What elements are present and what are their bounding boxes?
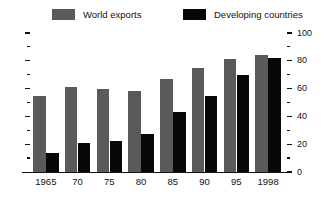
x-axis-line	[22, 172, 292, 173]
legend-item-world-exports: World exports	[52, 7, 141, 21]
y-tick-minor	[287, 102, 290, 103]
bar-world-exports	[160, 79, 173, 172]
bar-group	[33, 33, 59, 172]
bar-developing-countries	[237, 75, 250, 172]
bar-developing-countries	[205, 96, 218, 172]
y-tick-label: 60	[297, 84, 307, 93]
legend-item-developing-countries: Developing countries	[183, 7, 303, 21]
y-tick-major	[287, 171, 292, 172]
x-axis-label: 1965	[30, 176, 62, 187]
bar-group	[160, 33, 186, 172]
y-axis-left-ticks	[22, 33, 30, 172]
x-axis-label: 80	[125, 176, 157, 187]
bar-developing-countries	[78, 143, 91, 172]
y-tick-label: 0	[297, 168, 302, 177]
bar-world-exports	[33, 96, 46, 172]
bar-developing-countries	[141, 134, 154, 172]
x-axis-label: 75	[94, 176, 126, 187]
legend-swatch-world-exports	[52, 9, 75, 20]
x-axis-label: 85	[157, 176, 189, 187]
y-tick-label: 80	[297, 56, 307, 65]
chart-legend: World exports Developing countries	[0, 6, 329, 24]
y-tick-major	[287, 116, 292, 117]
y-tick-minor	[287, 130, 290, 131]
bar-group	[65, 33, 91, 172]
bar-developing-countries	[268, 58, 281, 172]
bar-developing-countries	[110, 141, 123, 172]
x-axis-label: 95	[221, 176, 253, 187]
x-axis-label: 1998	[252, 176, 284, 187]
x-axis-labels: 19657075808590951998	[30, 176, 284, 190]
legend-swatch-developing-countries	[183, 9, 206, 20]
y-tick-major	[287, 32, 292, 33]
x-axis-label: 70	[62, 176, 94, 187]
bar-chart: World exports Developing countries 02040…	[0, 0, 329, 202]
bar-developing-countries	[173, 112, 186, 172]
y-tick-major	[287, 88, 292, 89]
y-tick-major	[287, 144, 292, 145]
bar-group	[255, 33, 281, 172]
bar-world-exports	[192, 68, 205, 172]
y-tick-major	[287, 60, 292, 61]
legend-label-world-exports: World exports	[83, 9, 141, 20]
bar-world-exports	[128, 91, 141, 172]
legend-label-developing-countries: Developing countries	[214, 9, 303, 20]
bar-developing-countries	[46, 153, 59, 172]
y-tick-label: 100	[297, 29, 312, 38]
y-tick-minor	[287, 46, 290, 47]
bar-world-exports	[97, 89, 110, 172]
x-axis-label: 90	[189, 176, 221, 187]
bar-world-exports	[65, 87, 78, 172]
plot-area	[30, 33, 284, 172]
bar-world-exports	[255, 55, 268, 172]
y-tick-label: 20	[297, 140, 307, 149]
y-tick-label: 40	[297, 112, 307, 121]
y-tick-minor	[287, 157, 290, 158]
y-tick-minor	[287, 74, 290, 75]
bar-group	[192, 33, 218, 172]
bar-group	[128, 33, 154, 172]
bar-group	[97, 33, 123, 172]
bar-world-exports	[224, 59, 237, 172]
y-axis-right-ticks: 020406080100	[287, 33, 295, 172]
bar-group	[224, 33, 250, 172]
